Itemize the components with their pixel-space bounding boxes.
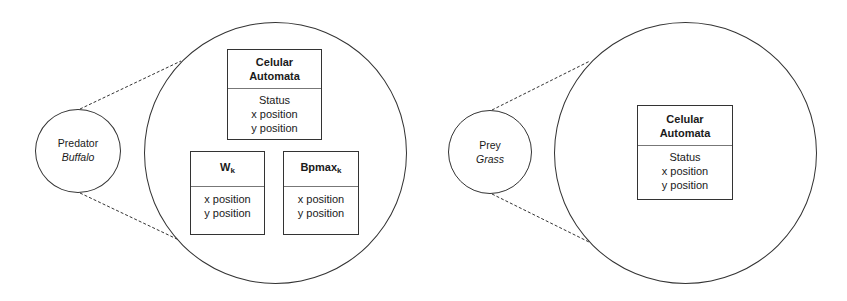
box-attributes: Status x position y position: [228, 89, 321, 135]
prey-cellular-automata-box: Celular Automata Status x position y pos…: [637, 105, 733, 200]
box-header: Bpmaxk: [284, 152, 358, 187]
attribute-y-position: y position: [191, 206, 264, 220]
attribute-x-position: x position: [191, 192, 264, 206]
prey-role: Prey: [479, 139, 501, 151]
bpmax-box: Bpmaxk x position y position: [283, 151, 359, 235]
box-title: Bpmaxk: [300, 160, 341, 178]
box-header: Wk: [191, 152, 264, 187]
attribute-status: Status: [228, 93, 321, 107]
attribute-x-position: x position: [638, 164, 732, 178]
predator-label: Predator Buffalo: [35, 136, 121, 164]
box-header: Celular Automata: [228, 50, 321, 89]
box-attributes: x position y position: [284, 187, 358, 220]
box-title-line2: Automata: [249, 69, 300, 83]
attribute-y-position: y position: [228, 121, 321, 135]
predator-cellular-automata-box: Celular Automata Status x position y pos…: [227, 49, 322, 140]
predator-role: Predator: [58, 137, 98, 149]
prey-label: Prey Grass: [448, 138, 532, 166]
prey-species: Grass: [448, 152, 532, 166]
wk-box: Wk x position y position: [190, 151, 265, 235]
box-title: Wk: [220, 160, 235, 178]
attribute-y-position: y position: [638, 178, 732, 192]
box-attributes: x position y position: [191, 187, 264, 220]
box-title-line1: Celular: [256, 55, 293, 69]
attribute-status: Status: [638, 150, 732, 164]
predator-species: Buffalo: [35, 150, 121, 164]
box-title-line1: Celular: [666, 112, 703, 126]
attribute-x-position: x position: [228, 107, 321, 121]
box-title-line2: Automata: [660, 126, 711, 140]
box-header: Celular Automata: [638, 106, 732, 146]
box-attributes: Status x position y position: [638, 146, 732, 192]
attribute-x-position: x position: [284, 192, 358, 206]
attribute-y-position: y position: [284, 206, 358, 220]
